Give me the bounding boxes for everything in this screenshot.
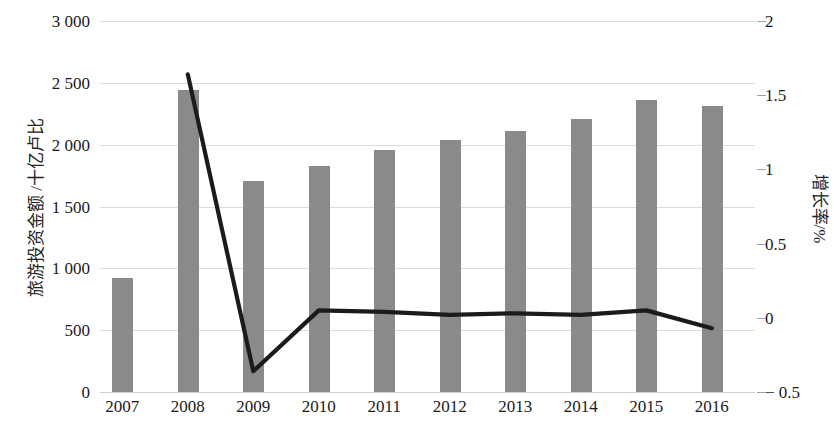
x-axis-tick-label: 2012 <box>418 398 482 415</box>
plot-area <box>100 21 755 392</box>
y-axis-right-ticks: 21.510.50− 0.5 <box>765 0 821 423</box>
y-axis-left-tick-label: 0 <box>22 384 90 401</box>
axis-tick-mark <box>757 95 766 96</box>
bar <box>505 131 526 392</box>
bar <box>636 100 657 392</box>
y-axis-right-tick-label: 2 <box>765 13 774 30</box>
x-axis-tick-label: 2015 <box>614 398 678 415</box>
y-axis-left-tick-label: 1 000 <box>22 260 90 277</box>
y-axis-left-tick-label: 1 500 <box>22 199 90 216</box>
bar <box>374 150 395 392</box>
x-axis-tick-label: 2009 <box>221 398 285 415</box>
y-axis-left-tick-label: 3 000 <box>22 13 90 30</box>
gridline <box>100 83 755 84</box>
y-axis-right-tick-label: 0.5 <box>765 236 786 253</box>
bar <box>571 119 592 392</box>
bar <box>178 90 199 392</box>
bar <box>243 181 264 392</box>
axis-tick-mark <box>757 244 766 245</box>
axis-tick-mark <box>757 21 766 22</box>
y-axis-right-tick-label: 1 <box>765 161 774 178</box>
gridline <box>100 21 755 22</box>
y-axis-left-tick-label: 2 500 <box>22 75 90 92</box>
bar <box>702 106 723 392</box>
x-axis-tick-label: 2011 <box>352 398 416 415</box>
y-axis-left-ticks: 3 0002 5002 0001 5001 0005000 <box>22 0 90 423</box>
y-axis-left-tick-label: 500 <box>22 322 90 339</box>
axis-tick-mark <box>757 169 766 170</box>
x-axis-tick-label: 2008 <box>156 398 220 415</box>
x-axis-tick-label: 2013 <box>483 398 547 415</box>
y-axis-right-tick-label: 0 <box>765 310 774 327</box>
x-axis-tick-label: 2010 <box>287 398 351 415</box>
y-axis-right-tick-label: − 0.5 <box>765 384 800 401</box>
gridline <box>100 392 755 393</box>
bar <box>440 140 461 392</box>
bar <box>309 166 330 392</box>
axis-tick-mark <box>757 392 766 393</box>
y-axis-left-tick-label: 2 000 <box>22 137 90 154</box>
x-axis-tick-label: 2016 <box>680 398 744 415</box>
y-axis-right-tick-label: 1.5 <box>765 87 786 104</box>
bar <box>112 278 133 392</box>
axis-tick-mark <box>757 318 766 319</box>
x-axis-tick-label: 2007 <box>90 398 154 415</box>
x-axis-tick-label: 2014 <box>549 398 613 415</box>
